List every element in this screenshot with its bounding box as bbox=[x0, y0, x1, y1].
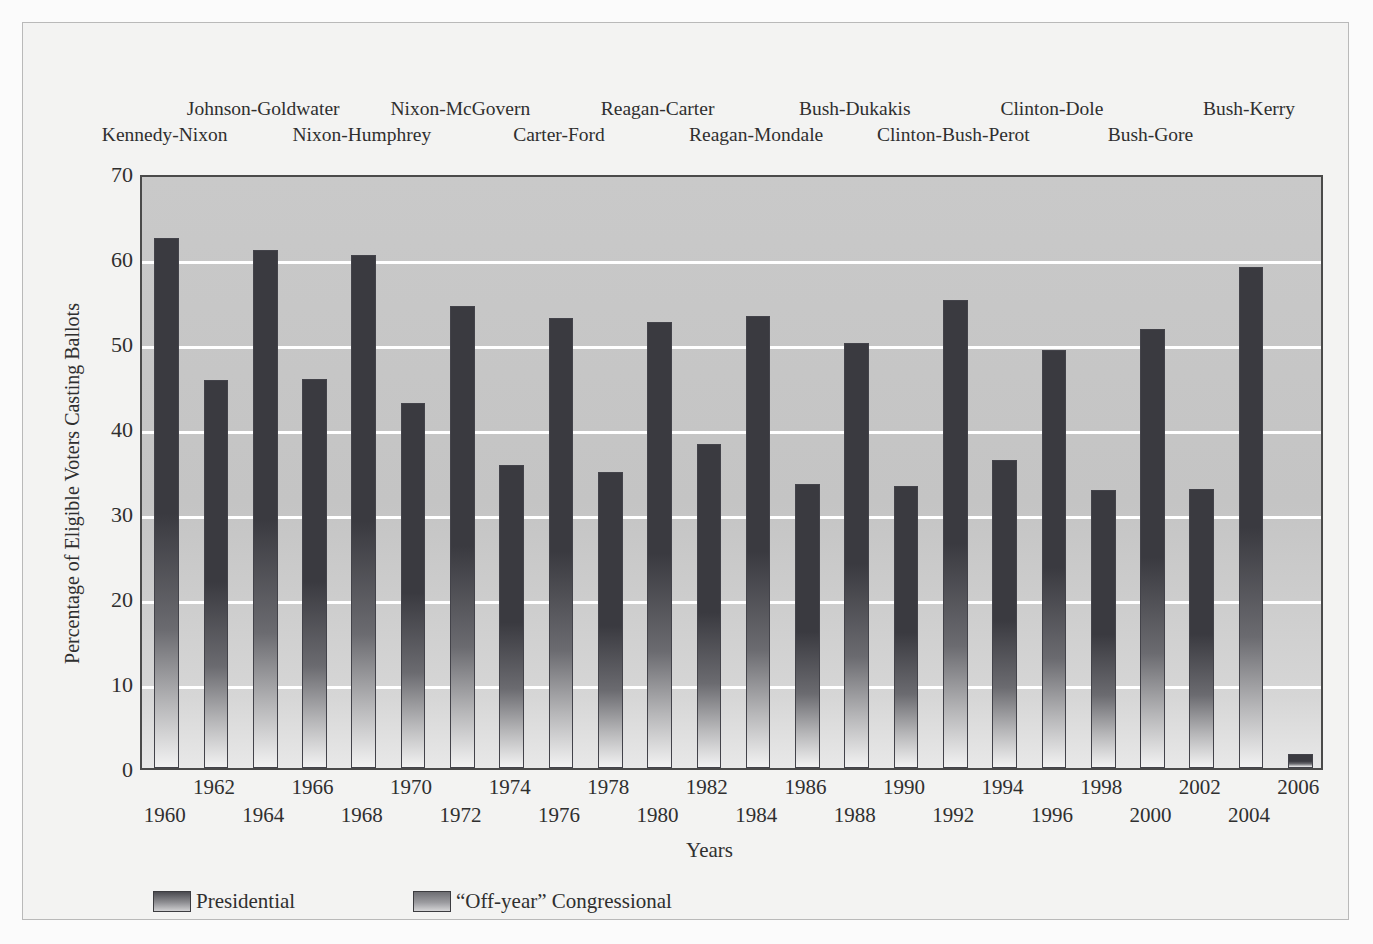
bar-2004-presidential bbox=[1239, 267, 1264, 768]
x-tick-1976: 1976 bbox=[538, 803, 580, 828]
x-tick-1994: 1994 bbox=[982, 775, 1024, 800]
election-label-reagan-mondale: Reagan-Mondale bbox=[689, 123, 823, 147]
x-tick-1982: 1982 bbox=[686, 775, 728, 800]
bar-1998-offyear bbox=[1091, 490, 1116, 768]
x-tick-1990: 1990 bbox=[883, 775, 925, 800]
x-tick-2002: 2002 bbox=[1179, 775, 1221, 800]
x-tick-1980: 1980 bbox=[637, 803, 679, 828]
bar-2006-offyear bbox=[1288, 754, 1313, 768]
election-label-reagan-carter: Reagan-Carter bbox=[601, 97, 715, 121]
bar-1988-presidential bbox=[844, 343, 869, 768]
bar-1994-offyear bbox=[992, 460, 1017, 768]
legend-label: “Off-year” Congressional bbox=[456, 889, 672, 914]
x-tick-2006: 2006 bbox=[1277, 775, 1319, 800]
election-label-bush-kerry: Bush-Kerry bbox=[1203, 97, 1295, 121]
bar-1962-offyear bbox=[204, 380, 229, 768]
bar-1996-presidential bbox=[1042, 350, 1067, 768]
x-tick-1974: 1974 bbox=[489, 775, 531, 800]
bar-1986-offyear bbox=[795, 484, 820, 768]
x-tick-2000: 2000 bbox=[1129, 803, 1171, 828]
bar-1976-presidential bbox=[549, 318, 574, 768]
x-tick-1998: 1998 bbox=[1080, 775, 1122, 800]
election-label-nixon-humphrey: Nixon-Humphrey bbox=[292, 123, 431, 147]
x-tick-1992: 1992 bbox=[932, 803, 974, 828]
bar-2002-offyear bbox=[1189, 489, 1214, 768]
election-label-nixon-mcgovern: Nixon-McGovern bbox=[391, 97, 531, 121]
bar-1974-offyear bbox=[499, 465, 524, 768]
x-tick-1964: 1964 bbox=[242, 803, 284, 828]
presidential-swatch bbox=[153, 891, 191, 912]
x-tick-1960: 1960 bbox=[144, 803, 186, 828]
legend-item-presidential: Presidential bbox=[153, 889, 295, 914]
offyear-swatch bbox=[413, 891, 451, 912]
bar-1968-presidential bbox=[351, 255, 376, 768]
plot-area bbox=[140, 175, 1323, 770]
bar-1980-presidential bbox=[647, 322, 672, 768]
x-tick-1996: 1996 bbox=[1031, 803, 1073, 828]
x-tick-1984: 1984 bbox=[735, 803, 777, 828]
x-tick-1966: 1966 bbox=[292, 775, 334, 800]
bar-1990-offyear bbox=[894, 486, 919, 768]
legend-label: Presidential bbox=[196, 889, 295, 914]
bar-1966-offyear bbox=[302, 379, 327, 768]
bar-series bbox=[142, 177, 1321, 768]
x-tick-1972: 1972 bbox=[439, 803, 481, 828]
x-tick-1986: 1986 bbox=[784, 775, 826, 800]
election-label-kennedy-nixon: Kennedy-Nixon bbox=[102, 123, 228, 147]
x-axis-ticks: 1960196219641966196819701972197419761978… bbox=[23, 775, 1373, 837]
x-axis-label: Years bbox=[23, 838, 1373, 863]
bar-1972-presidential bbox=[450, 306, 475, 768]
election-label-carter-ford: Carter-Ford bbox=[513, 123, 605, 147]
election-label-clinton-dole: Clinton-Dole bbox=[1000, 97, 1103, 121]
bar-1970-offyear bbox=[401, 403, 426, 769]
election-label-bush-dukakis: Bush-Dukakis bbox=[799, 97, 911, 121]
y-tick-70: 70 bbox=[63, 164, 133, 186]
bar-1992-presidential bbox=[943, 300, 968, 768]
bar-1984-presidential bbox=[746, 316, 771, 768]
x-tick-1978: 1978 bbox=[587, 775, 629, 800]
election-label-clinton-bush-perot: Clinton-Bush-Perot bbox=[877, 123, 1030, 147]
election-annotations: Kennedy-NixonJohnson-GoldwaterNixon-Hump… bbox=[23, 97, 1373, 159]
y-axis-label: Percentage of Eligible Voters Casting Ba… bbox=[61, 224, 84, 744]
chart-page: Kennedy-NixonJohnson-GoldwaterNixon-Hump… bbox=[0, 0, 1373, 944]
bar-1964-presidential bbox=[253, 250, 278, 769]
bar-1960-presidential bbox=[154, 238, 179, 768]
legend-item-offyear-congressional: “Off-year” Congressional bbox=[413, 889, 672, 914]
x-tick-2004: 2004 bbox=[1228, 803, 1270, 828]
bar-1982-offyear bbox=[697, 444, 722, 768]
x-tick-1970: 1970 bbox=[390, 775, 432, 800]
bar-2000-presidential bbox=[1140, 329, 1165, 768]
election-label-bush-gore: Bush-Gore bbox=[1108, 123, 1194, 147]
bar-1978-offyear bbox=[598, 472, 623, 768]
x-tick-1962: 1962 bbox=[193, 775, 235, 800]
election-label-johnson-goldwater: Johnson-Goldwater bbox=[187, 97, 340, 121]
page-frame: Kennedy-NixonJohnson-GoldwaterNixon-Hump… bbox=[22, 22, 1349, 920]
x-tick-1968: 1968 bbox=[341, 803, 383, 828]
x-tick-1988: 1988 bbox=[834, 803, 876, 828]
